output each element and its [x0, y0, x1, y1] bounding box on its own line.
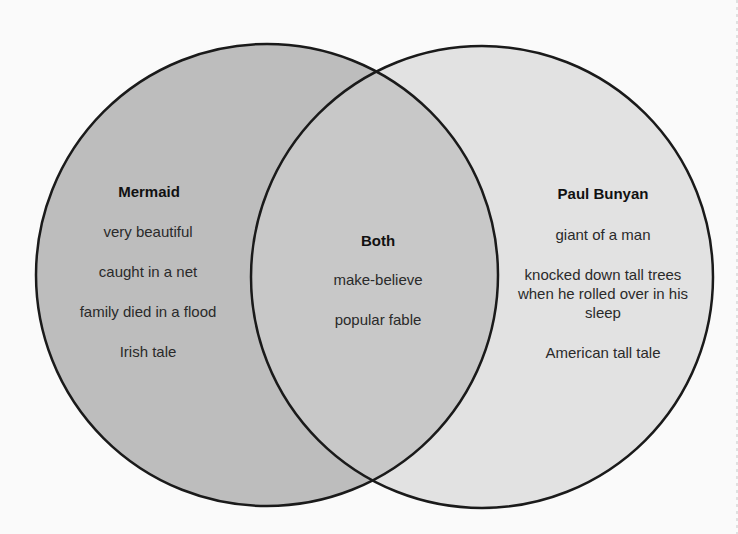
left-item: family died in a flood: [80, 302, 217, 321]
right-item: knocked down tall trees when he rolled o…: [508, 265, 698, 322]
both-item: popular fable: [335, 310, 422, 329]
both-title: Both: [361, 231, 395, 250]
right-item: giant of a man: [555, 225, 650, 244]
both-item: make-believe: [333, 270, 422, 289]
right-title: Paul Bunyan: [558, 184, 649, 203]
left-item: Irish tale: [120, 342, 177, 361]
left-title: Mermaid: [118, 182, 180, 201]
right-item: American tall tale: [545, 343, 660, 362]
left-item: caught in a net: [99, 262, 197, 281]
left-item: very beautiful: [103, 222, 192, 241]
